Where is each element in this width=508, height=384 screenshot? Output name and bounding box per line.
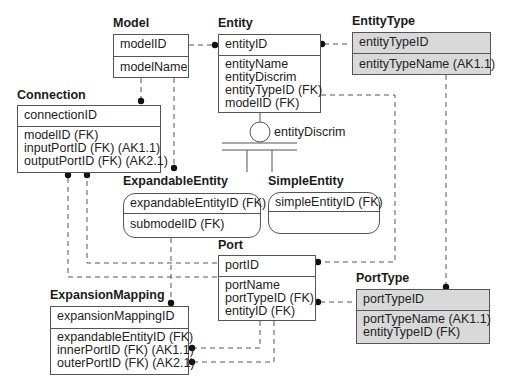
entity-title-entitytype: EntityType — [352, 14, 415, 28]
attribute: entityTypeName (AK1.1) — [359, 58, 484, 71]
entity-box-simpleentity[interactable]: simpleEntityID (FK) — [268, 192, 380, 234]
entity-title-simpleentity: SimpleEntity — [268, 174, 344, 188]
primary-key: entityTypeID — [353, 33, 490, 54]
primary-key: portTypeID — [357, 290, 489, 311]
discriminator-label: entityDiscrim — [274, 125, 346, 139]
attribute: outerPortID (FK) (AK2.1) — [57, 357, 182, 370]
entity-title-connection: Connection — [17, 88, 86, 102]
entity-title-expansionmapping: ExpansionMapping — [50, 288, 165, 302]
primary-key: expandableEntityID (FK) — [124, 194, 260, 214]
primary-key: portID — [219, 256, 315, 277]
entity-box-connection[interactable]: connectionID modelID (FK) inputPortID (F… — [17, 105, 161, 173]
entity-box-porttype[interactable]: portTypeID portTypeName (AK1.1) entityTy… — [356, 289, 490, 344]
entity-box-expandableentity[interactable]: expandableEntityID (FK) submodelID (FK) — [123, 193, 261, 238]
primary-key: connectionID — [18, 106, 160, 127]
entity-title-port: Port — [218, 238, 243, 252]
primary-key: expansionMappingID — [51, 307, 188, 329]
entity-box-expansionmapping[interactable]: expansionMappingID expandableEntityID (F… — [50, 306, 189, 375]
attribute: entityTypeID (FK) — [363, 326, 483, 339]
entity-title-porttype: PortType — [356, 271, 409, 285]
dot-connection-model — [138, 98, 144, 104]
entity-title-entity: Entity — [218, 16, 253, 30]
attribute: outputPortID (FK) (AK2.1) — [24, 155, 154, 168]
entity-title-model: Model — [113, 16, 149, 30]
dot-expandable-model — [171, 165, 177, 171]
attribute: modelName — [120, 61, 182, 74]
entity-box-port[interactable]: portID portName portTypeID (FK) entityID… — [218, 255, 316, 321]
entity-box-entity[interactable]: entityID entityName entityDiscrim entity… — [218, 34, 321, 113]
primary-key: entityID — [219, 35, 320, 56]
attribute: modelID (FK) — [225, 97, 314, 110]
primary-key: simpleEntityID (FK) — [269, 193, 379, 212]
rel-port-expansion-inner — [193, 321, 260, 348]
rel-port-expansion-outer — [193, 321, 274, 362]
entity-title-expandableentity: ExpandableEntity — [123, 174, 228, 188]
entity-box-model[interactable]: modelID modelName — [113, 34, 189, 78]
subtype-discriminator — [222, 113, 297, 172]
attribute: entityID (FK) — [225, 305, 309, 318]
attribute: submodelID (FK) — [130, 218, 254, 231]
primary-key: modelID — [114, 35, 188, 57]
entity-box-entitytype[interactable]: entityTypeID entityTypeName (AK1.1) — [352, 32, 491, 75]
